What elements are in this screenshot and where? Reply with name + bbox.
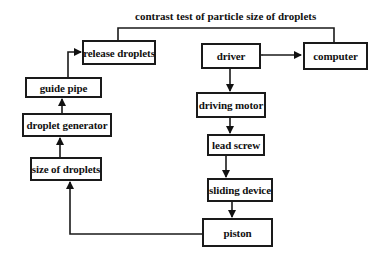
node-lead-screw: lead screw [207, 134, 265, 156]
node-release-droplets: release droplets [82, 40, 156, 65]
node-driver: driver [201, 43, 261, 69]
node-size-of-droplets: size of droplets [30, 157, 102, 181]
node-guide-pipe: guide pipe [25, 77, 102, 98]
diagram-title: contrast test of particle size of drople… [135, 10, 316, 22]
piston-to-size-arrow [70, 182, 202, 234]
node-droplet-generator: droplet generator [22, 113, 112, 137]
pipe-to-release-arrow [68, 52, 81, 77]
node-driving-motor: driving motor [196, 92, 266, 118]
node-piston: piston [202, 218, 273, 247]
node-sliding-device: sliding device [207, 178, 273, 202]
node-computer: computer [303, 42, 368, 70]
